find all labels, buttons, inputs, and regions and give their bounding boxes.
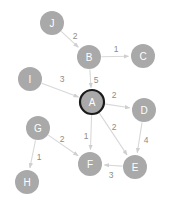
- edge-weight-label: 3: [60, 74, 65, 84]
- edge-weight-label: 2: [112, 90, 117, 100]
- nodes-layer: ABCDEFGHIJ: [15, 11, 156, 194]
- graph-edge: [104, 104, 129, 108]
- graph-node-a[interactable]: A: [80, 90, 104, 114]
- edge-weight-label: 1: [84, 131, 89, 141]
- edge-weight-label: 3: [109, 170, 114, 180]
- graph-edge: [90, 114, 91, 149]
- graph-node-e[interactable]: E: [123, 155, 147, 179]
- node-label: D: [140, 105, 147, 116]
- graph-edge: [104, 165, 122, 166]
- edge-weight-label: 1: [37, 152, 42, 162]
- graph-node-g[interactable]: G: [26, 116, 50, 140]
- graph-edge: [42, 83, 79, 97]
- edge-weight-label: 2: [60, 134, 65, 144]
- graph-node-h[interactable]: H: [15, 170, 39, 194]
- graph-node-f[interactable]: F: [78, 152, 102, 176]
- node-label: C: [139, 51, 146, 62]
- node-label: E: [132, 162, 139, 173]
- graph-node-i[interactable]: I: [18, 67, 42, 91]
- graph-node-b[interactable]: B: [77, 45, 101, 69]
- node-label: A: [89, 97, 96, 108]
- graph-edge: [30, 140, 36, 168]
- node-label: G: [34, 123, 42, 134]
- edge-weight-label: 2: [73, 31, 78, 41]
- graph-edge: [90, 69, 91, 87]
- edge-weight-label: 4: [144, 135, 149, 145]
- graph-node-j[interactable]: J: [40, 11, 64, 35]
- graph-node-c[interactable]: C: [131, 44, 155, 68]
- edge-weight-label: 1: [114, 44, 119, 54]
- graph-diagram: 21532214321 ABCDEFGHIJ: [0, 0, 170, 205]
- node-label: I: [29, 74, 32, 85]
- graph-edge: [137, 122, 142, 152]
- node-label: F: [87, 159, 93, 170]
- graph-edge: [101, 56, 128, 57]
- node-label: H: [23, 177, 30, 188]
- node-label: J: [50, 18, 55, 29]
- graph-edge: [99, 112, 127, 154]
- edge-weight-label: 2: [112, 122, 117, 132]
- graph-node-d[interactable]: D: [132, 98, 156, 122]
- node-label: B: [86, 52, 93, 63]
- graph-canvas: 21532214321 ABCDEFGHIJ: [0, 0, 170, 205]
- edge-weight-label: 5: [94, 75, 99, 85]
